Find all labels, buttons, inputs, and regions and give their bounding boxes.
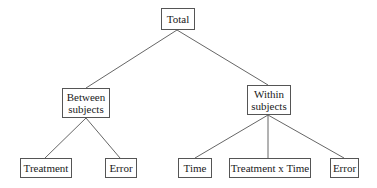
node-total-label: Total bbox=[167, 13, 189, 25]
node-within-subjects: Within subjects bbox=[247, 85, 291, 115]
node-between-label-line1: Between bbox=[67, 91, 105, 103]
node-within-error: Error bbox=[330, 158, 359, 178]
node-treatment: Treatment bbox=[20, 158, 72, 178]
node-within-label-line2: subjects bbox=[251, 100, 286, 112]
node-treatment-x-time: Treatment x Time bbox=[229, 158, 311, 178]
node-time: Time bbox=[178, 158, 212, 178]
node-treatment-x-time-label: Treatment x Time bbox=[231, 162, 309, 174]
node-between-error-label: Error bbox=[109, 162, 132, 174]
node-between-label-line2: subjects bbox=[68, 103, 103, 115]
node-within-error-label: Error bbox=[333, 162, 356, 174]
node-treatment-label: Treatment bbox=[24, 162, 69, 174]
node-time-label: Time bbox=[184, 162, 207, 174]
node-total: Total bbox=[161, 8, 195, 30]
node-within-label-line1: Within bbox=[254, 88, 284, 100]
node-between-subjects: Between subjects bbox=[62, 88, 110, 118]
node-between-error: Error bbox=[105, 158, 137, 178]
